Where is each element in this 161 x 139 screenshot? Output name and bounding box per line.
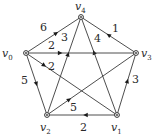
arrow-icon (58, 51, 63, 55)
arrow-icon (41, 62, 46, 66)
edge-weight-v2-v4: 3 (61, 31, 68, 44)
vertex-center-v2 (46, 114, 48, 116)
edge-weight-v1-v2: 2 (80, 121, 87, 134)
vertex-label-v2: v2 (40, 121, 51, 136)
vertex-label-v3: v3 (141, 47, 152, 62)
arrow-icon (53, 32, 58, 36)
vertex-label-v1: v1 (111, 121, 122, 136)
edge-weight-v2-v3: 5 (70, 101, 77, 114)
edge-weight-v0-v4: 6 (40, 21, 47, 34)
vertex-label-v0: v0 (2, 47, 13, 62)
vertex-center-v4 (80, 16, 82, 18)
edge-weight-v1-v4: 4 (94, 32, 101, 45)
directed-graph: 6134225352 v0v1v2v3v4 (0, 0, 161, 139)
edge-weight-v0-v1: 2 (48, 60, 55, 73)
vertex-label-v4: v4 (75, 0, 86, 15)
vertex-center-v3 (135, 52, 137, 54)
edge-weight-v1-v3: 3 (132, 73, 139, 86)
vertex-center-v0 (25, 52, 27, 54)
arrow-icon (83, 113, 88, 117)
edge-weight-v0-v2: 5 (21, 74, 28, 87)
vertex-center-v1 (116, 114, 118, 116)
arrow-icon (34, 81, 38, 86)
arrow-icon (107, 34, 112, 38)
weights-layer: 6134225352 (21, 21, 139, 134)
edge-weight-v0-v3: 2 (48, 39, 55, 52)
edge-v2-v3 (47, 53, 136, 115)
edge-weight-v3-v4: 1 (112, 22, 119, 35)
